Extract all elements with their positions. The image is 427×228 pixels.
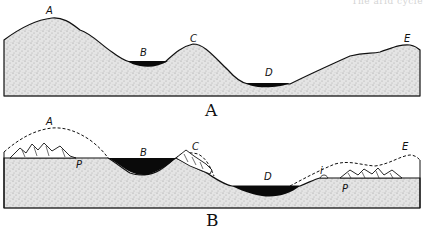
caption-b: B: [206, 210, 219, 228]
label-p-left: P: [76, 159, 83, 170]
label-b: B: [140, 47, 147, 58]
caption-a: A: [204, 100, 218, 120]
label-p-right: P: [342, 183, 349, 194]
label-c: C: [190, 33, 197, 44]
label-d: D: [264, 171, 272, 182]
residual-hills-right: [340, 168, 402, 178]
label-b: B: [140, 147, 147, 158]
label-d: D: [265, 67, 273, 78]
label-e: E: [402, 141, 409, 152]
label-a: A: [45, 5, 53, 16]
label-c: C: [192, 141, 199, 152]
residual-hills-left: [10, 143, 76, 158]
landform-cross-sections: A B C D E A A B C D E P P i: [0, 0, 427, 228]
label-a: A: [45, 116, 53, 127]
section-b: A B C D E P P i B: [4, 116, 420, 228]
terrain-a: [4, 18, 420, 96]
section-a: A B C D E A: [4, 5, 420, 120]
terrain-b: [4, 158, 420, 208]
label-i: i: [320, 165, 323, 176]
label-e: E: [404, 33, 411, 44]
